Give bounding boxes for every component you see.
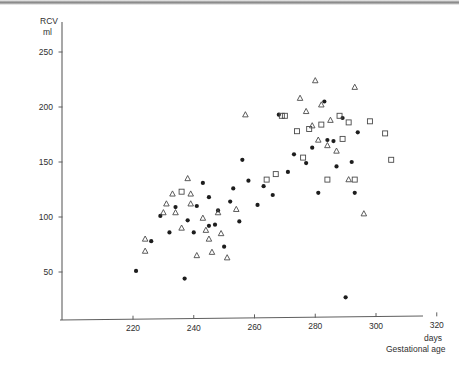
data-point-triangle [188,201,194,206]
data-point-square [325,177,330,182]
data-point-square [282,113,287,118]
x-tick-label: 280 [308,321,322,331]
data-point-circle [186,218,190,222]
data-point-triangle [142,248,148,253]
data-point-circle [201,181,205,185]
data-point-triangle [346,177,352,182]
data-point-square [389,157,394,162]
data-point-circle [292,152,296,156]
data-point-triangle [179,225,185,230]
data-point-triangle [209,249,215,254]
data-point-circle [149,239,153,243]
data-marker-group [134,78,394,300]
data-point-circle [207,195,211,199]
x-axis-title-line1: days [424,333,442,343]
data-point-circle [183,277,187,281]
data-point-circle [316,191,320,195]
scatter-plot-figure: RCV ml days Gestational age 250200150100… [0,0,459,369]
y-tick-label: 150 [39,157,53,167]
data-point-triangle [316,137,322,142]
data-point-circle [222,245,226,249]
data-point-circle [331,139,335,143]
y-tick-label: 200 [39,102,53,112]
data-point-triangle [352,84,358,89]
data-point-triangle [170,191,176,196]
data-point-triangle [312,78,318,83]
data-point-circle [325,138,329,142]
data-point-circle [262,184,266,188]
x-axis-line [60,316,423,320]
data-point-square [295,129,300,134]
data-point-triangle [243,112,249,117]
data-point-square [273,172,278,177]
data-point-circle [213,223,217,227]
y-axis-title-line1: RCV [40,16,58,26]
data-point-circle [192,230,196,234]
data-point-triangle [325,143,331,148]
data-point-circle [344,295,348,299]
data-point-square [352,177,357,182]
x-axis [60,316,423,320]
y-tick-label: 250 [39,47,53,57]
x-tick-label: 260 [247,322,261,332]
data-point-circle [286,170,290,174]
data-point-triangle [164,201,170,206]
data-point-circle [167,230,171,234]
data-point-triangle [224,255,230,260]
data-point-square [264,177,269,182]
y-axis-title-line2: ml [43,27,52,37]
data-point-circle [322,99,326,103]
data-point-circle [350,160,354,164]
data-point-square [179,189,184,194]
data-point-circle [195,204,199,208]
x-tick-group: 220240260280300320 [126,312,444,333]
x-tick-label: 240 [187,323,201,333]
data-point-circle [231,186,235,190]
data-point-triangle [194,253,200,258]
x-axis-title-line2: Gestational age [386,344,446,354]
data-point-triangle [303,108,309,113]
data-point-circle [310,146,314,150]
x-tick-label: 320 [430,320,444,330]
x-tick-label: 220 [126,323,140,333]
y-tick-label: 50 [44,267,54,277]
data-point-triangle [200,215,206,220]
data-point-triangle [161,210,167,215]
data-point-circle [271,193,275,197]
data-point-triangle [142,236,148,241]
data-point-circle [237,219,241,223]
y-tick-label: 100 [39,212,53,222]
data-point-circle [255,203,259,207]
data-point-circle [246,179,250,183]
data-point-square [367,119,372,124]
data-point-triangle [361,211,367,216]
data-point-circle [228,200,232,204]
data-point-triangle [203,227,209,232]
data-point-triangle [218,231,224,236]
data-point-triangle [206,236,212,241]
plot-svg: RCV ml days Gestational age 250200150100… [0,0,459,369]
data-point-circle [240,158,244,162]
data-point-triangle [309,123,315,128]
data-point-triangle [185,176,191,181]
data-point-square [301,155,306,160]
y-tick-group: 25020015010050 [39,47,63,277]
data-point-circle [334,164,338,168]
data-point-circle [173,205,177,209]
data-point-triangle [328,117,334,122]
data-point-triangle [234,206,240,211]
data-point-triangle [334,148,340,153]
data-point-square [307,127,312,132]
data-point-circle [353,191,357,195]
data-point-circle [304,161,308,165]
data-point-square [340,136,345,141]
data-point-circle [207,224,211,228]
data-point-triangle [173,210,179,215]
data-point-triangle [188,191,194,196]
x-tick-label: 300 [369,321,383,331]
data-point-triangle [297,95,303,100]
data-point-circle [356,130,360,134]
data-point-square [319,122,324,127]
data-point-square [383,131,388,136]
data-point-circle [134,269,138,273]
